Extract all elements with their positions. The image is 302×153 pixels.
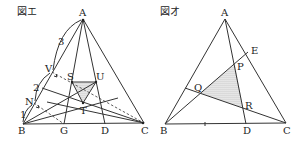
label-e: E — [251, 45, 258, 56]
label-p: P — [237, 61, 244, 72]
label-b: B — [18, 125, 25, 136]
label-u: U — [96, 71, 104, 82]
label-b-o: B — [160, 125, 167, 136]
label-a: A — [78, 7, 87, 18]
geometry-diagram: 図エ A B C G D S U T — [0, 0, 302, 153]
label-s: S — [67, 71, 74, 82]
label-t: T — [80, 105, 87, 116]
right-angle-n — [36, 105, 39, 108]
figure-o: 図オ A B C D E P Q R — [160, 6, 291, 136]
label-d: D — [101, 125, 109, 136]
segment-c-t — [47, 102, 144, 123]
label-g: G — [60, 125, 68, 136]
label-r: R — [245, 100, 253, 111]
label-q: Q — [194, 82, 202, 93]
label-d-o: D — [243, 125, 251, 136]
label-v: V — [44, 63, 53, 74]
figure-o-title: 図オ — [160, 6, 180, 17]
label-ratio-3: 3 — [58, 36, 64, 47]
figure-e-title: 図エ — [17, 6, 37, 17]
label-c: C — [141, 125, 149, 136]
label-ratio-1: 1 — [20, 109, 26, 120]
label-c-o: C — [283, 125, 291, 136]
label-n: N — [25, 96, 34, 107]
label-a-o: A — [220, 7, 229, 18]
figure-e: 図エ A B C G D S U T — [17, 6, 149, 136]
label-ratio-2: 2 — [33, 82, 39, 93]
right-angle-v — [54, 74, 57, 77]
segment-c-to-ab-2 — [42, 88, 144, 123]
